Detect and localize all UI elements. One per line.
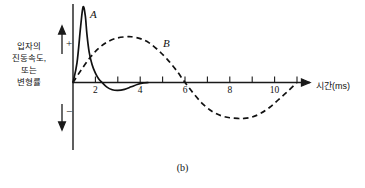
x-axis-arrowhead [302, 79, 311, 86]
figure-panel: 2 4 6 8 10 A B + − 입자의 진동속도, 또는 변형률 시간(m… [0, 0, 365, 188]
positive-sign-label: + [66, 38, 72, 49]
y-axis-title: 입자의 진동속도, 또는 변형률 [2, 40, 56, 88]
x-tick-label-10: 10 [265, 86, 285, 96]
positive-direction-arrow [59, 26, 66, 54]
x-tick-label-8: 8 [220, 86, 240, 96]
x-axis-ticks [95, 77, 297, 83]
negative-sign-label: − [66, 106, 72, 117]
x-axis-title: 시간(ms) [316, 82, 350, 91]
y-axis-title-line-1: 입자의 [2, 40, 56, 52]
x-tick-label-6: 6 [175, 86, 195, 96]
x-tick-label-2: 2 [85, 86, 105, 96]
x-tick-label-4: 4 [130, 86, 150, 96]
figure-caption: (b) [0, 163, 365, 173]
y-axis-title-line-4: 변형률 [2, 76, 56, 88]
y-axis-title-line-2: 진동속도, [2, 52, 56, 64]
curve-b-label: B [163, 38, 170, 49]
negative-direction-arrow [59, 104, 66, 130]
y-axis-title-line-3: 또는 [2, 64, 56, 76]
curve-a-line [73, 7, 148, 91]
curve-a-label: A [90, 9, 97, 20]
